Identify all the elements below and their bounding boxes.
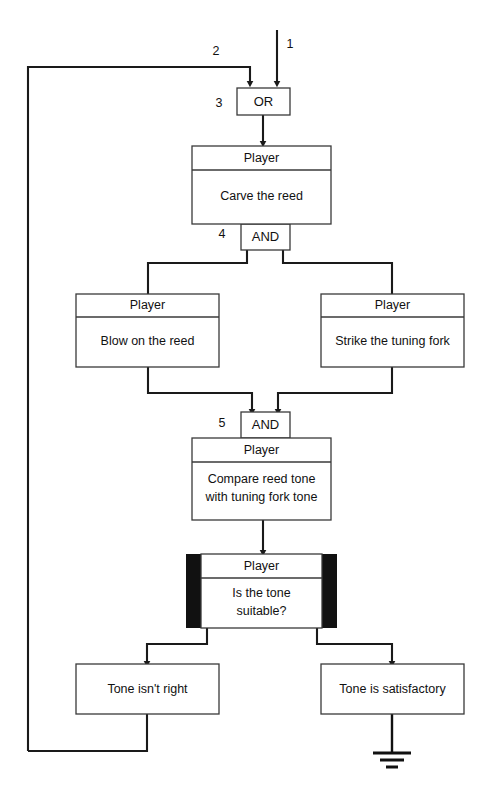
task-blow-on-the-reed[interactable]: Player Blow on the reed [76,294,219,367]
task-compare-body-line2: with tuning fork tone [205,490,318,504]
connector-not-right-to-feedback [28,714,147,751]
decision-body-line1: Is the tone [232,586,290,600]
ground-icon [373,753,411,767]
task-blow-body: Blow on the reed [101,334,195,348]
connector-blow-to-and2 [148,367,252,412]
flowchart-canvas: OR AND AND Player Carve the reed Player … [0,0,487,799]
gate-and-2[interactable]: AND [241,412,290,438]
decision-left-bar [186,554,201,628]
step-number-4: 4 [219,227,226,241]
gate-and-2-label: AND [252,417,279,432]
step-number-3: 3 [216,96,223,110]
task-carve-body: Carve the reed [220,189,303,203]
task-compare-body-line1: Compare reed tone [208,472,316,486]
task-compare-reed-tone[interactable]: Player Compare reed tone with tuning for… [192,438,331,520]
decision-right-bar [322,554,337,628]
task-carve-header: Player [244,151,279,165]
task-strike-body: Strike the tuning fork [335,334,450,348]
step-number-2: 2 [213,44,220,58]
step-number-1: 1 [287,37,294,51]
task-compare-header: Player [244,443,279,457]
outcome-satisfactory-label: Tone is satisfactory [339,682,446,696]
outcome-not-right-label: Tone isn't right [107,682,188,696]
outcome-tone-isnt-right[interactable]: Tone isn't right [76,664,219,714]
connector-and1-left-branch [148,250,247,294]
decision-is-the-tone-suitable[interactable]: Player Is the tone suitable? [186,554,337,628]
decision-body-line2: suitable? [236,604,286,618]
connector-decision-to-satisfactory [317,628,392,664]
task-carve-the-reed[interactable]: Player Carve the reed [192,146,331,224]
task-strike-the-tuning-fork[interactable]: Player Strike the tuning fork [321,294,464,367]
task-blow-header: Player [130,298,165,312]
decision-header: Player [244,559,279,573]
connector-strike-to-and2 [278,367,392,412]
flowchart-diagram: OR AND AND Player Carve the reed Player … [0,0,487,799]
step-number-5: 5 [219,416,226,430]
gate-or-label: OR [254,94,274,109]
connector-decision-to-not-right [147,628,207,664]
gate-and-1-label: AND [252,229,279,244]
gate-or[interactable]: OR [237,88,290,115]
outcome-tone-is-satisfactory[interactable]: Tone is satisfactory [321,664,464,714]
gate-and-1[interactable]: AND [241,224,290,250]
task-strike-header: Player [375,298,410,312]
connector-and1-right-branch [283,250,392,294]
